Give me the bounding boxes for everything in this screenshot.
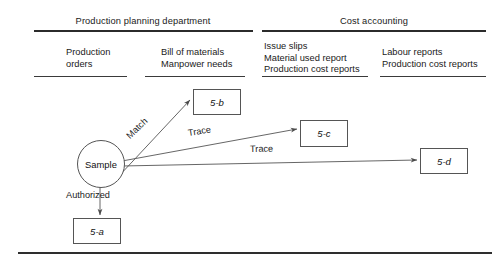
column-labour-reports: Labour reportsProduction cost reports [382,47,478,70]
column-issue-slips: Issue slipsMaterial used reportProductio… [264,41,360,76]
node-5-c[interactable]: 5-c [300,120,348,147]
column-issue-slips-line-2: Production cost reports [264,64,360,76]
rule-top-left [34,30,253,32]
diagram-canvas: Production planning department Cost acco… [0,0,500,265]
edge-label-trace-5d: Trace [250,144,273,154]
column-labour-reports-line-1: Production cost reports [382,59,478,71]
column-issue-slips-line-0: Issue slips [264,41,360,53]
department-header-cost-accounting: Cost accounting [340,16,408,26]
column-labour-reports-line-0: Labour reports [382,47,478,59]
column-production-orders-line-1: orders [66,59,110,71]
edge-trace-5d [122,160,417,166]
column-issue-slips-line-1: Material used report [264,53,360,65]
node-5-d[interactable]: 5-d [420,148,468,174]
node-5-a[interactable]: 5-a [73,218,121,244]
column-production-orders: Productionorders [66,47,110,70]
rule-col-4 [380,76,486,77]
edge-label-authorized: Authorized [66,190,110,200]
rule-col-3 [262,76,368,77]
column-bill-of-materials-line-0: Bill of materials [161,47,232,59]
node-5-b[interactable]: 5-b [193,89,241,115]
rule-col-2 [145,76,245,77]
node-sample[interactable]: Sample [77,140,125,188]
department-header-production: Production planning department [76,16,211,26]
column-bill-of-materials-line-1: Manpower needs [161,59,232,71]
column-production-orders-line-0: Production [66,47,110,59]
rule-col-1 [34,76,127,77]
column-bill-of-materials: Bill of materialsManpower needs [161,47,232,70]
bottom-border-rule [18,252,492,254]
rule-top-right [262,30,486,32]
